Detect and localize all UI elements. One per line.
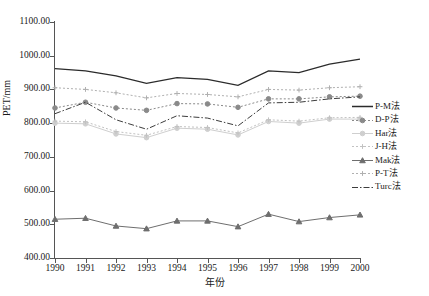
chart-container: PET/mm 1100.001000.00900.00800.00700.006… bbox=[0, 0, 429, 296]
data-point-marker bbox=[327, 85, 332, 90]
legend-label: P-M法 bbox=[375, 100, 400, 113]
legend-label: Mak法 bbox=[375, 154, 401, 167]
data-point-marker bbox=[266, 87, 271, 92]
data-point-marker bbox=[236, 105, 241, 110]
data-point-marker bbox=[296, 219, 302, 224]
data-point-marker bbox=[175, 101, 180, 106]
data-point-marker bbox=[205, 92, 210, 97]
data-point-marker bbox=[144, 95, 149, 100]
series-5 bbox=[52, 211, 363, 231]
data-point-marker bbox=[175, 91, 180, 96]
data-point-marker bbox=[357, 212, 363, 217]
series-1 bbox=[55, 59, 360, 85]
legend-swatch-icon bbox=[352, 155, 373, 166]
legend-label: J-H法 bbox=[375, 140, 397, 153]
data-point-marker bbox=[266, 97, 271, 102]
legend-item-1[interactable]: P-M法 bbox=[352, 100, 429, 113]
legend-swatch-icon bbox=[352, 168, 373, 179]
series-line bbox=[55, 59, 360, 85]
legend-item-4[interactable]: J-H法 bbox=[352, 140, 429, 153]
legend-swatch-icon bbox=[352, 115, 373, 126]
data-point-marker bbox=[235, 224, 241, 229]
data-point-marker bbox=[83, 87, 88, 92]
legend-swatch-icon bbox=[352, 182, 373, 193]
x-axis-title: 年份 bbox=[0, 274, 429, 289]
legend-swatch-icon bbox=[352, 101, 373, 112]
data-point-marker bbox=[52, 216, 58, 221]
data-point-marker bbox=[297, 97, 302, 102]
legend-label: D-P法 bbox=[375, 113, 399, 126]
data-point-marker bbox=[236, 94, 241, 99]
data-point-marker bbox=[358, 94, 363, 99]
data-point-marker bbox=[144, 226, 150, 231]
data-point-marker bbox=[53, 106, 58, 111]
data-point-marker bbox=[53, 85, 58, 90]
chart-legend: P-M法D-P法Har法J-H法Mak法P-T法Turc法 bbox=[352, 100, 429, 194]
data-point-marker bbox=[174, 218, 180, 223]
data-point-marker bbox=[144, 108, 149, 113]
legend-label: P-T法 bbox=[375, 167, 398, 180]
data-point-marker bbox=[83, 215, 89, 220]
data-point-marker bbox=[113, 223, 119, 228]
legend-item-6[interactable]: P-T法 bbox=[352, 167, 429, 180]
data-point-marker bbox=[327, 215, 333, 220]
data-point-marker bbox=[205, 102, 210, 107]
data-point-marker bbox=[114, 106, 119, 111]
legend-item-5[interactable]: Mak法 bbox=[352, 154, 429, 167]
legend-label: Har法 bbox=[375, 127, 398, 140]
legend-item-3[interactable]: Har法 bbox=[352, 127, 429, 140]
legend-label: Turc法 bbox=[375, 180, 401, 193]
data-point-marker bbox=[266, 211, 272, 216]
data-point-marker bbox=[83, 100, 88, 105]
data-point-marker bbox=[114, 90, 119, 95]
legend-swatch-icon bbox=[352, 141, 373, 152]
data-point-marker bbox=[205, 218, 211, 223]
legend-item-7[interactable]: Turc法 bbox=[352, 180, 429, 193]
data-point-marker bbox=[297, 88, 302, 93]
data-point-marker bbox=[358, 84, 363, 89]
legend-swatch-icon bbox=[352, 128, 373, 139]
legend-item-2[interactable]: D-P法 bbox=[352, 113, 429, 126]
